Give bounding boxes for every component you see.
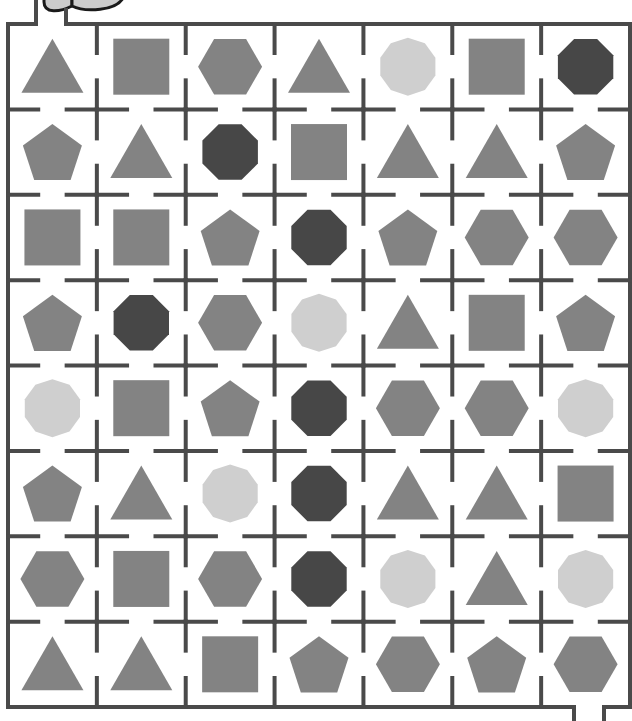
pentagon-icon[interactable] — [201, 209, 260, 265]
hexagon-icon[interactable] — [198, 295, 262, 350]
hexagon-icon[interactable] — [554, 210, 618, 266]
pentagon-icon[interactable] — [23, 466, 82, 522]
triangle-icon[interactable] — [110, 636, 172, 690]
hexagon-icon[interactable] — [465, 381, 529, 436]
octagon-icon[interactable] — [291, 551, 346, 607]
triangle-icon[interactable] — [288, 39, 350, 93]
square-icon[interactable] — [113, 209, 169, 265]
hexagon-icon[interactable] — [465, 210, 529, 266]
decagon-icon[interactable] — [380, 38, 435, 96]
triangle-icon[interactable] — [21, 636, 83, 690]
decagon-icon[interactable] — [25, 379, 80, 437]
square-icon[interactable] — [113, 551, 169, 607]
square-icon[interactable] — [202, 636, 258, 692]
square-icon[interactable] — [469, 295, 525, 351]
hexagon-icon[interactable] — [20, 551, 84, 607]
octagon-icon[interactable] — [202, 124, 258, 180]
hexagon-icon[interactable] — [376, 637, 440, 692]
pentagon-icon[interactable] — [23, 295, 82, 351]
start-icon — [44, 0, 124, 11]
square-icon[interactable] — [24, 209, 80, 265]
triangle-icon[interactable] — [377, 124, 439, 178]
decagon-icon[interactable] — [380, 550, 435, 608]
decagon-icon[interactable] — [291, 294, 346, 352]
pentagon-icon[interactable] — [556, 295, 615, 351]
decagon-icon[interactable] — [558, 379, 613, 437]
pentagon-icon[interactable] — [467, 636, 526, 692]
square-icon[interactable] — [291, 124, 347, 180]
pentagon-icon[interactable] — [23, 124, 82, 180]
square-icon[interactable] — [558, 466, 614, 522]
shape-maze — [0, 0, 632, 721]
octagon-icon[interactable] — [291, 466, 346, 522]
hexagon-icon[interactable] — [554, 637, 618, 692]
triangle-icon[interactable] — [466, 551, 528, 605]
octagon-icon[interactable] — [558, 39, 613, 94]
pentagon-icon[interactable] — [201, 380, 260, 436]
triangle-icon[interactable] — [466, 124, 528, 178]
square-icon[interactable] — [469, 39, 525, 95]
triangle-icon[interactable] — [377, 295, 439, 349]
decagon-icon[interactable] — [558, 550, 613, 608]
pentagon-icon[interactable] — [290, 636, 349, 692]
maze-board — [0, 0, 632, 721]
triangle-icon[interactable] — [110, 466, 172, 520]
hexagon-icon[interactable] — [376, 381, 440, 436]
hexagon-icon[interactable] — [198, 39, 262, 94]
square-icon[interactable] — [113, 380, 169, 436]
decagon-icon[interactable] — [203, 465, 258, 523]
hexagon-icon[interactable] — [198, 551, 262, 607]
triangle-icon[interactable] — [377, 466, 439, 520]
pentagon-icon[interactable] — [378, 209, 437, 265]
pentagon-icon[interactable] — [556, 124, 615, 180]
triangle-icon[interactable] — [466, 466, 528, 520]
octagon-icon[interactable] — [114, 295, 169, 350]
triangle-icon[interactable] — [21, 39, 83, 93]
octagon-icon[interactable] — [291, 381, 346, 436]
square-icon[interactable] — [113, 39, 169, 95]
octagon-icon[interactable] — [291, 210, 346, 266]
triangle-icon[interactable] — [110, 124, 172, 178]
